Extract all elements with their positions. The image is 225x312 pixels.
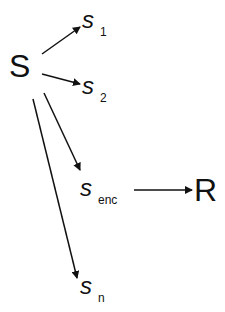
node-sn: sn (80, 274, 105, 298)
diagram-canvas: S s1 s2 senc sn R (0, 0, 225, 312)
edge-S-sn (33, 99, 77, 278)
edges-layer (0, 0, 225, 312)
node-s1: s1 (82, 8, 107, 32)
node-s2-subscript: 2 (100, 91, 107, 105)
edge-S-senc (44, 93, 80, 170)
node-R: R (194, 174, 217, 206)
node-sn-subscript: n (98, 291, 105, 305)
node-S: S (9, 50, 30, 82)
node-s2: s2 (82, 74, 107, 98)
edge-S-s1 (42, 27, 80, 54)
node-s1-base: s (82, 6, 94, 33)
node-sn-base: s (80, 272, 92, 299)
node-senc-base: s (80, 174, 92, 201)
node-s2-base: s (82, 72, 94, 99)
node-senc: senc (80, 176, 117, 200)
node-s1-subscript: 1 (100, 25, 107, 39)
node-senc-subscript: enc (98, 193, 117, 207)
edge-S-s2 (42, 74, 80, 84)
